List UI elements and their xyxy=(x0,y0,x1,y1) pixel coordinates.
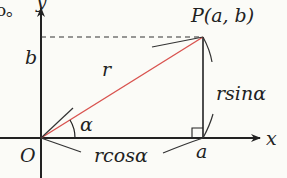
radius-segment xyxy=(41,37,203,138)
y-tick-label: b xyxy=(25,48,37,67)
point-label: P(a, b) xyxy=(191,6,254,25)
angle-arc xyxy=(70,120,75,138)
brace-stroke xyxy=(203,37,212,62)
right-angle-marker xyxy=(192,128,203,138)
horizontal-segment-label: rcosα xyxy=(94,146,148,165)
x-axis-label: x xyxy=(266,129,277,148)
brace-stroke xyxy=(41,108,73,138)
radius-label: r xyxy=(102,60,111,79)
vertical-segment-label: rsinα xyxy=(216,84,266,103)
x-tick-label: a xyxy=(196,142,207,161)
brace-stroke xyxy=(203,114,213,138)
brace-stroke xyxy=(41,138,81,152)
polar-coordinate-diagram: o。 y P(a, b) b r rsinα α O rcosα a x xyxy=(0,0,287,178)
origin-label: O xyxy=(20,146,36,165)
leading-text: o。 xyxy=(0,2,23,19)
y-axis-label: y xyxy=(36,0,47,11)
angle-label: α xyxy=(80,115,93,134)
